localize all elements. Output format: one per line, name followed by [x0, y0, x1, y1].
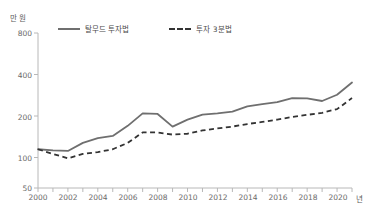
chart-container: 만 원 년 탈무드 투자법 투자 3분법 800 400 200 100 50 … — [0, 0, 372, 216]
x-axis-ticks — [38, 188, 352, 192]
series-line-talmud — [38, 83, 352, 151]
series-line-three-way — [38, 98, 352, 158]
y-axis-ticks — [34, 33, 38, 188]
plot-area — [0, 0, 372, 216]
